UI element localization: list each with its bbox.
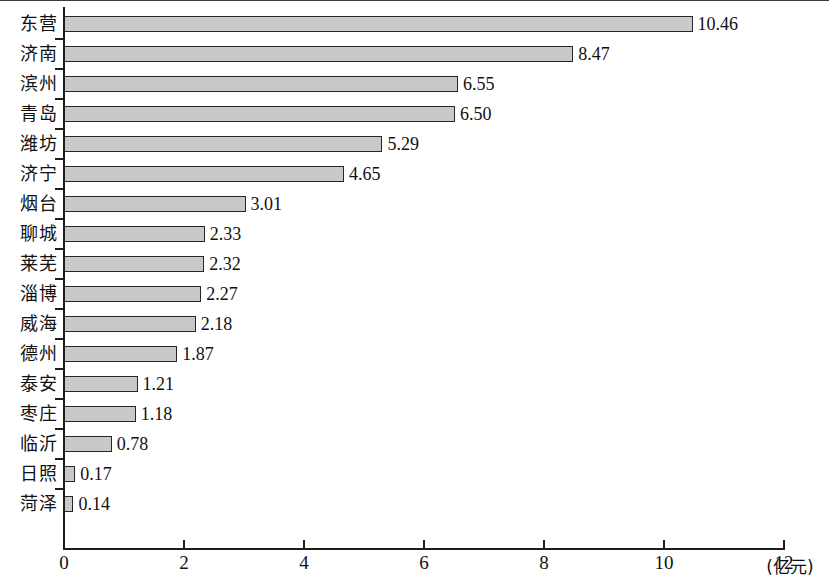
bar-row: 泰安1.21 bbox=[0, 369, 829, 399]
bar-row: 莱芜2.32 bbox=[0, 249, 829, 279]
x-axis-unit-label: (亿元) bbox=[766, 553, 813, 577]
bar bbox=[65, 256, 204, 272]
y-axis-tick bbox=[55, 38, 65, 40]
bar-container: 2.32 bbox=[65, 256, 204, 272]
bar-value-label: 1.18 bbox=[141, 404, 173, 425]
y-axis-tick bbox=[55, 98, 65, 100]
x-axis-tick bbox=[423, 540, 425, 549]
y-axis-tick bbox=[55, 158, 65, 160]
x-axis-tick bbox=[783, 540, 785, 549]
bar bbox=[65, 196, 246, 212]
bar-container: 0.17 bbox=[65, 466, 75, 482]
category-label: 滨州 bbox=[0, 69, 57, 99]
x-axis-tick bbox=[663, 540, 665, 549]
bar bbox=[65, 286, 201, 302]
x-axis-tick-label: 8 bbox=[539, 552, 549, 574]
bar-container: 5.29 bbox=[65, 136, 382, 152]
x-axis-tick-label: 0 bbox=[59, 552, 69, 574]
bar-row: 济南8.47 bbox=[0, 39, 829, 69]
bar-container: 4.65 bbox=[65, 166, 344, 182]
bar-value-label: 6.50 bbox=[460, 104, 492, 125]
bar bbox=[65, 46, 573, 62]
bar-value-label: 3.01 bbox=[251, 194, 283, 215]
category-label: 烟台 bbox=[0, 189, 57, 219]
x-axis-tick-label: 2 bbox=[179, 552, 189, 574]
category-label: 临沂 bbox=[0, 429, 57, 459]
bar bbox=[65, 496, 73, 512]
x-axis-tick bbox=[183, 540, 185, 549]
bar-value-label: 4.65 bbox=[349, 164, 381, 185]
x-axis-tick-label: 6 bbox=[419, 552, 429, 574]
category-label: 东营 bbox=[0, 9, 57, 39]
y-axis-tick bbox=[55, 188, 65, 190]
x-axis-tick bbox=[303, 540, 305, 549]
category-label: 泰安 bbox=[0, 369, 57, 399]
bar-value-label: 0.17 bbox=[80, 464, 112, 485]
bar-value-label: 0.78 bbox=[117, 434, 149, 455]
y-axis-tick bbox=[55, 278, 65, 280]
bar bbox=[65, 346, 177, 362]
bar-row: 日照0.17 bbox=[0, 459, 829, 489]
bar-container: 6.50 bbox=[65, 106, 455, 122]
bar-row: 德州1.87 bbox=[0, 339, 829, 369]
bar-chart: 东营10.46济南8.47滨州6.55青岛6.50潍坊5.29济宁4.65烟台3… bbox=[0, 0, 829, 577]
x-axis-tick-label: 4 bbox=[299, 552, 309, 574]
bar-container: 6.55 bbox=[65, 76, 458, 92]
bar-value-label: 2.18 bbox=[201, 314, 233, 335]
y-axis-tick bbox=[55, 128, 65, 130]
y-axis-tick bbox=[55, 248, 65, 250]
bar-value-label: 1.87 bbox=[182, 344, 214, 365]
bar-row: 菏泽0.14 bbox=[0, 489, 829, 519]
bar-value-label: 1.21 bbox=[143, 374, 175, 395]
y-axis-tick bbox=[55, 308, 65, 310]
y-axis-tick bbox=[55, 488, 65, 490]
category-label: 枣庄 bbox=[0, 399, 57, 429]
category-label: 德州 bbox=[0, 339, 57, 369]
bar-container: 0.14 bbox=[65, 496, 73, 512]
y-axis-tick bbox=[55, 68, 65, 70]
bar-value-label: 2.33 bbox=[210, 224, 242, 245]
y-axis-tick bbox=[55, 398, 65, 400]
category-label: 潍坊 bbox=[0, 129, 57, 159]
bar-rows: 东营10.46济南8.47滨州6.55青岛6.50潍坊5.29济宁4.65烟台3… bbox=[0, 9, 829, 519]
plot-area: 东营10.46济南8.47滨州6.55青岛6.50潍坊5.29济宁4.65烟台3… bbox=[0, 1, 829, 577]
y-axis-tick bbox=[55, 218, 65, 220]
bar-container: 8.47 bbox=[65, 46, 573, 62]
bar-value-label: 10.46 bbox=[698, 14, 739, 35]
bar-row: 临沂0.78 bbox=[0, 429, 829, 459]
bar-container: 1.87 bbox=[65, 346, 177, 362]
bar-row: 烟台3.01 bbox=[0, 189, 829, 219]
x-axis-tick bbox=[543, 540, 545, 549]
bar bbox=[65, 226, 205, 242]
bar-row: 威海2.18 bbox=[0, 309, 829, 339]
bar bbox=[65, 376, 138, 392]
category-label: 日照 bbox=[0, 459, 57, 489]
category-label: 济南 bbox=[0, 39, 57, 69]
bar bbox=[65, 466, 75, 482]
bar bbox=[65, 316, 196, 332]
bar-row: 青岛6.50 bbox=[0, 99, 829, 129]
bar-row: 济宁4.65 bbox=[0, 159, 829, 189]
bar bbox=[65, 16, 693, 32]
bar-container: 10.46 bbox=[65, 16, 693, 32]
bar-value-label: 2.32 bbox=[209, 254, 241, 275]
bar-row: 潍坊5.29 bbox=[0, 129, 829, 159]
bar-value-label: 6.55 bbox=[463, 74, 495, 95]
bar bbox=[65, 436, 112, 452]
bar-row: 滨州6.55 bbox=[0, 69, 829, 99]
bar-value-label: 5.29 bbox=[387, 134, 419, 155]
bar-value-label: 2.27 bbox=[206, 284, 238, 305]
bar-value-label: 0.14 bbox=[78, 494, 110, 515]
y-axis-tick bbox=[55, 338, 65, 340]
bar-container: 2.27 bbox=[65, 286, 201, 302]
bar-row: 聊城2.33 bbox=[0, 219, 829, 249]
category-label: 聊城 bbox=[0, 219, 57, 249]
y-axis-tick bbox=[55, 428, 65, 430]
bar-row: 淄博2.27 bbox=[0, 279, 829, 309]
bar bbox=[65, 106, 455, 122]
category-label: 济宁 bbox=[0, 159, 57, 189]
bar-container: 2.33 bbox=[65, 226, 205, 242]
category-label: 莱芜 bbox=[0, 249, 57, 279]
bar-container: 2.18 bbox=[65, 316, 196, 332]
y-axis-tick bbox=[55, 458, 65, 460]
